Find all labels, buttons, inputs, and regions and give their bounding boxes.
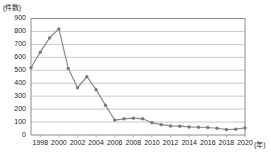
x-axis-unit-label: (年) — [254, 139, 266, 149]
x-tick-label: 2010 — [144, 139, 160, 146]
data-point — [234, 127, 237, 130]
data-point — [141, 117, 144, 120]
x-tick-label: 2006 — [107, 139, 123, 146]
data-point — [215, 127, 218, 130]
data-point — [85, 75, 88, 78]
data-point — [76, 86, 79, 89]
x-tick-label: 2018 — [219, 139, 235, 146]
data-point — [132, 116, 135, 119]
data-point — [122, 117, 125, 120]
x-tick-label: 1998 — [33, 139, 49, 146]
data-point — [67, 67, 70, 70]
data-point — [57, 27, 60, 30]
data-point — [243, 126, 246, 129]
data-point — [150, 121, 153, 124]
data-point — [113, 118, 116, 121]
x-tick-label: 2020 — [237, 139, 253, 146]
y-tick-label: 500 — [2, 66, 26, 73]
data-point — [206, 126, 209, 129]
y-tick-label: 200 — [2, 105, 26, 112]
series-line-kensu — [31, 29, 245, 130]
y-tick-label: 800 — [2, 27, 26, 34]
data-point — [178, 125, 181, 128]
line-chart: (件数) 0100200300400500600700800900 199820… — [0, 0, 271, 166]
data-point — [94, 88, 97, 91]
x-tick-label: 2002 — [70, 139, 86, 146]
y-tick-label: 300 — [2, 92, 26, 99]
data-point — [160, 123, 163, 126]
data-point — [39, 50, 42, 53]
x-tick-label: 2016 — [200, 139, 216, 146]
x-tick-label: 2004 — [88, 139, 104, 146]
x-tick-label: 2008 — [126, 139, 142, 146]
data-point — [169, 124, 172, 127]
y-tick-label: 400 — [2, 79, 26, 86]
x-tick-label: 2000 — [51, 139, 67, 146]
x-tick-label: 2014 — [181, 139, 197, 146]
plot-frame — [31, 19, 245, 136]
y-tick-label: 900 — [2, 14, 26, 21]
y-tick-label: 700 — [2, 40, 26, 47]
y-tick-label: 600 — [2, 53, 26, 60]
y-tick-label: 0 — [2, 131, 26, 138]
data-point — [197, 126, 200, 129]
data-point — [29, 66, 32, 69]
y-tick-label: 100 — [2, 118, 26, 125]
data-point — [48, 36, 51, 39]
data-point — [187, 125, 190, 128]
data-point — [104, 104, 107, 107]
x-tick-label: 2012 — [163, 139, 179, 146]
data-point — [225, 128, 228, 131]
